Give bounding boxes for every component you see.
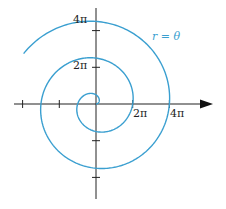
x-axis-arrow-icon bbox=[200, 100, 213, 109]
equation-label: r = θ bbox=[152, 31, 180, 42]
x-label-2pi: 2π bbox=[133, 108, 147, 119]
spiral-curve bbox=[24, 21, 170, 168]
spiral-figure: 4π 2π 2π 4π r = θ bbox=[0, 0, 226, 209]
y-label-2pi: 2π bbox=[73, 60, 87, 71]
x-label-4pi: 4π bbox=[170, 108, 184, 119]
plot-area bbox=[0, 0, 226, 209]
y-label-4pi: 4π bbox=[73, 14, 87, 25]
